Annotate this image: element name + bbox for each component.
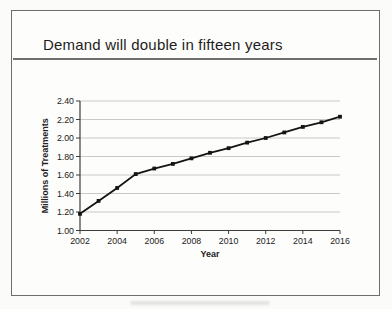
x-axis-title: Year [200,249,220,259]
data-point-marker [171,162,175,166]
data-point-marker [320,120,324,124]
x-tick-label: 2006 [144,236,164,246]
x-tick-label: 2008 [182,236,202,246]
y-tick-label: 1.20 [57,207,74,217]
data-point-marker [264,136,268,140]
x-tick-label: 2016 [330,236,350,246]
data-point-marker [97,199,101,203]
data-point-marker [208,151,212,155]
data-point-marker [152,167,156,171]
data-point-marker [301,125,305,129]
data-point-marker [245,141,249,145]
y-axis-title: Millions of Treatments [40,118,50,213]
x-tick-label: 2014 [293,236,313,246]
chart-svg: 1.001.201.401.601.802.002.202.4020022004… [0,0,392,309]
y-tick-label: 1.60 [57,170,74,180]
x-tick-label: 2002 [70,236,90,246]
data-point-marker [338,115,342,119]
y-tick-label: 1.00 [57,226,74,236]
y-tick-label: 1.40 [57,189,74,199]
data-point-marker [227,146,231,150]
data-point-marker [134,172,138,176]
demand-line-chart: 1.001.201.401.601.802.002.202.4020022004… [0,0,392,309]
x-tick-label: 2010 [219,236,239,246]
x-tick-label: 2012 [256,236,276,246]
data-point-marker [78,212,82,216]
y-tick-label: 2.20 [57,115,74,125]
series-line [80,117,340,214]
data-point-marker [282,131,286,135]
y-tick-label: 2.40 [57,96,74,106]
data-point-marker [115,186,119,190]
y-tick-label: 2.00 [57,133,74,143]
y-tick-label: 1.80 [57,152,74,162]
cropped-caption-artifact [130,301,270,305]
x-tick-label: 2004 [107,236,127,246]
data-point-marker [190,156,194,160]
